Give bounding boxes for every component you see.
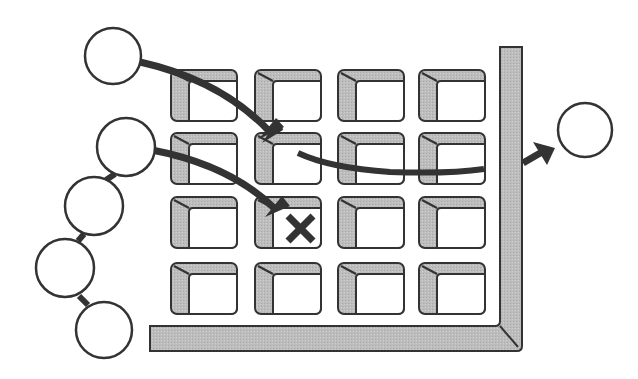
pore-grid	[171, 70, 485, 314]
pore-cell	[255, 70, 321, 121]
pore-cell	[171, 197, 237, 248]
pore-cell	[419, 263, 485, 314]
particle-outgoing	[558, 103, 612, 157]
pore-cell	[171, 263, 237, 314]
pore-cell	[338, 263, 404, 314]
pore-cell	[338, 197, 404, 248]
pore-cell	[255, 263, 321, 314]
pore-cell	[419, 197, 485, 248]
particle-chain-3	[36, 239, 94, 297]
particle-chain-2	[65, 177, 123, 235]
pore-cell	[338, 133, 404, 184]
pore-cell	[419, 133, 485, 184]
particle-chain-4	[76, 302, 132, 358]
particle-chain-1	[97, 118, 155, 176]
membrane-diagram	[0, 0, 638, 379]
pore-cell	[419, 70, 485, 121]
particles	[36, 28, 612, 358]
particle-incoming-1	[85, 28, 141, 84]
pore-cell	[338, 70, 404, 121]
